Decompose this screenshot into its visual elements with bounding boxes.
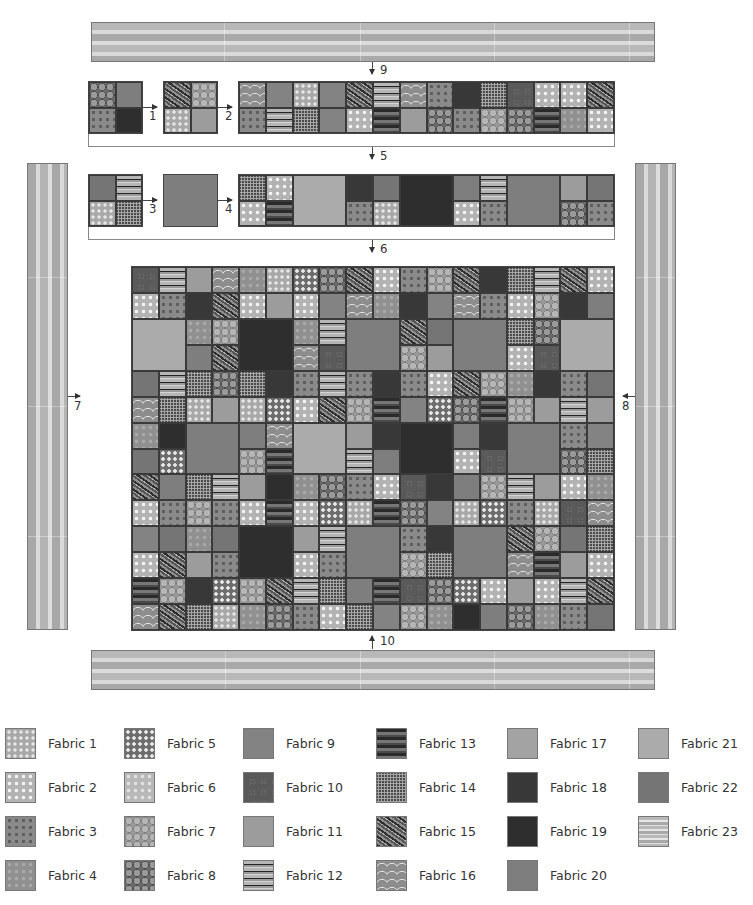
fabric-patch-f8 <box>534 319 561 345</box>
legend-swatch-f15 <box>376 816 407 847</box>
fabric-patch-f2 <box>373 474 400 500</box>
fabric-patch-f10 <box>507 82 534 108</box>
fabric-patch-f8 <box>89 82 116 108</box>
fabric-patch-f13 <box>534 108 561 134</box>
fabric-patch-f2 <box>319 604 346 630</box>
fabric-patch-f4 <box>534 604 561 630</box>
legend-label: Fabric 22 <box>681 780 738 795</box>
fabric-patch-f3 <box>400 371 427 397</box>
fabric-patch-f3 <box>346 201 373 227</box>
fabric-patch-f8 <box>266 604 293 630</box>
fabric-patch-f5 <box>453 578 480 604</box>
fabric-patch-f3 <box>346 474 373 500</box>
fabric-patch-f1 <box>266 267 293 293</box>
legend-label: Fabric 8 <box>167 868 216 883</box>
fabric-patch-f12 <box>560 397 587 423</box>
legend-item-f21: Fabric 21 <box>638 728 738 759</box>
fabric-patch-f2 <box>587 552 614 578</box>
legend-item-f7: Fabric 7 <box>124 816 216 847</box>
fabric-patch-f8 <box>453 397 480 423</box>
fabric-patch-f18 <box>346 175 373 201</box>
fabric-patch-f4 <box>186 319 213 345</box>
fabric-patch-f3 <box>346 371 373 397</box>
fabric-patch-f18 <box>453 82 480 108</box>
fabric-patch-f1 <box>239 397 266 423</box>
fabric-patch-f2 <box>427 371 454 397</box>
fabric-patch-f8 <box>427 578 454 604</box>
fabric-patch-f1 <box>534 500 561 526</box>
fabric-patch-f15 <box>560 267 587 293</box>
fabric-patch-f2 <box>453 201 480 227</box>
fabric-big-block-f20 <box>186 423 240 475</box>
fabric-patch-f9 <box>427 500 454 526</box>
fabric-patch-f20 <box>186 345 213 371</box>
fabric-patch-f5 <box>266 397 293 423</box>
fabric-patch-f13 <box>373 108 400 134</box>
fabric-patch-f13 <box>266 201 293 227</box>
legend-label: Fabric 6 <box>167 780 216 795</box>
fabric-patch-f8 <box>319 474 346 500</box>
fabric-patch-f2 <box>346 108 373 134</box>
legend-item-f13: Fabric 13 <box>376 728 476 759</box>
fabric-patch-f1 <box>453 500 480 526</box>
fabric-big-block-f21 <box>293 175 347 226</box>
fabric-patch-f22 <box>212 526 239 552</box>
fabric-patch-f15 <box>507 526 534 552</box>
fabric-patch-f2 <box>560 474 587 500</box>
fabric-patch-f15 <box>212 345 239 371</box>
fabric-patch-f4 <box>293 319 320 345</box>
fabric-patch-f19 <box>159 423 186 449</box>
step-2-label: 2 <box>225 108 232 123</box>
fabric-patch-f20 <box>453 175 480 201</box>
step-8-arrow <box>623 396 635 397</box>
step1-block-a <box>88 81 143 134</box>
fabric-patch-f11 <box>427 345 454 371</box>
fabric-patch-f5 <box>480 500 507 526</box>
fabric-patch-f11 <box>534 474 561 500</box>
legend-swatch-f23 <box>638 816 669 847</box>
fabric-patch-f20 <box>159 474 186 500</box>
fabric-patch-f5 <box>159 449 186 475</box>
legend-label: Fabric 18 <box>550 780 607 795</box>
step-9-label: 9 <box>380 62 387 77</box>
fabric-patch-f16 <box>266 423 293 449</box>
fabric-patch-f12 <box>534 267 561 293</box>
fabric-patch-f7 <box>346 397 373 423</box>
fabric-patch-f16 <box>293 345 320 371</box>
fabric-patch-f20 <box>587 293 614 319</box>
fabric-patch-f20 <box>453 423 480 449</box>
fabric-patch-f15 <box>212 293 239 319</box>
fabric-patch-f2 <box>587 108 614 134</box>
fabric-patch-f8 <box>507 604 534 630</box>
fabric-patch-f14 <box>480 82 507 108</box>
legend-item-f20: Fabric 20 <box>507 860 607 891</box>
fabric-patch-f2 <box>293 293 320 319</box>
fabric-patch-f18 <box>400 293 427 319</box>
fabric-patch-f9 <box>132 526 159 552</box>
legend-label: Fabric 2 <box>48 780 97 795</box>
fabric-patch-f12 <box>560 578 587 604</box>
fabric-patch-f9 <box>587 423 614 449</box>
fabric-patch-f11 <box>560 175 587 201</box>
legend-item-f11: Fabric 11 <box>243 816 343 847</box>
fabric-patch-f12 <box>293 578 320 604</box>
fabric-patch-f7 <box>534 293 561 319</box>
fabric-patch-f4 <box>239 267 266 293</box>
fabric-patch-f14 <box>319 578 346 604</box>
fabric-patch-f18 <box>186 293 213 319</box>
step-1-label: 1 <box>149 108 156 123</box>
fabric-patch-f2 <box>239 201 266 227</box>
fabric-patch-f15 <box>453 267 480 293</box>
fabric-patch-f15 <box>159 552 186 578</box>
fabric-patch-f20 <box>239 423 266 449</box>
step-6-arrow <box>372 240 373 252</box>
fabric-patch-f11 <box>212 397 239 423</box>
step-7-label: 7 <box>74 398 81 413</box>
fabric-patch-f4 <box>373 293 400 319</box>
fabric-patch-f8 <box>212 371 239 397</box>
fabric-patch-f14 <box>587 449 614 475</box>
fabric-patch-f10 <box>534 345 561 371</box>
fabric-patch-f9 <box>319 82 346 108</box>
legend-swatch-f20 <box>507 860 538 891</box>
fabric-patch-f15 <box>164 82 191 108</box>
